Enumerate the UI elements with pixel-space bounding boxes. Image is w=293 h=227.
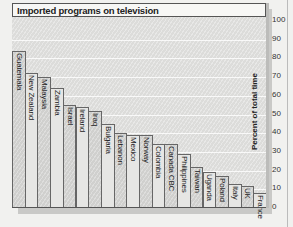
bar-label: Iraq	[91, 113, 100, 126]
y-tick-label: 70	[272, 71, 281, 80]
chart-title-bar: Imported programs on television	[12, 3, 266, 17]
bar-label: Malaysia	[40, 79, 49, 109]
y-tick-label: 10	[272, 183, 281, 192]
y-tick-label: 100	[272, 15, 285, 24]
gridline	[12, 58, 266, 59]
bar-label: Taiwan	[193, 169, 202, 193]
bar-label: Zambia	[53, 90, 62, 115]
y-axis-label: Percent of total time	[250, 73, 259, 150]
bar-label: Bulgaria	[104, 126, 113, 154]
bar-label: Ireland	[78, 109, 87, 132]
bar-label: Uganda	[205, 174, 214, 201]
bar-label: Philippines	[180, 156, 189, 193]
y-tick-label: 20	[272, 165, 281, 174]
y-tick-label: 60	[272, 90, 281, 99]
x-axis-baseline	[12, 207, 266, 208]
bar-label: Colombia	[154, 146, 163, 178]
bar-label: Guatemala	[15, 53, 24, 90]
y-tick-label: 90	[272, 34, 281, 43]
bar-label: UK	[243, 188, 252, 199]
y-tick-label: 30	[272, 146, 281, 155]
bar-label: Poland	[218, 178, 227, 202]
y-tick-label: 40	[272, 127, 281, 136]
bar-label: Lebanon	[116, 135, 125, 165]
gridline	[12, 40, 266, 41]
bar-label: Israel	[66, 107, 75, 125]
y-axis-line	[266, 3, 269, 208]
y-tick-label: 0	[272, 202, 276, 211]
page-divider	[287, 0, 288, 227]
y-tick-label: 50	[272, 109, 281, 118]
chart-title: Imported programs on television	[17, 5, 159, 16]
bar-label: Mexico	[129, 137, 138, 161]
bar-label: Norway	[142, 137, 151, 163]
y-tick-label: 80	[272, 52, 281, 61]
bar-label: Italy	[231, 186, 240, 200]
bar-label: Canada CBC	[167, 146, 176, 191]
bar-label: New Zealand	[27, 75, 36, 120]
